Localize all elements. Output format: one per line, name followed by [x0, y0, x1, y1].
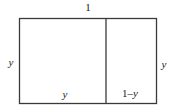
left-height-label: y — [9, 57, 14, 68]
right-height-label: y — [162, 59, 167, 70]
bottom-right-width-label: 1–y — [122, 88, 138, 99]
bottom-left-width-label: y — [63, 89, 68, 100]
top-width-label: 1 — [85, 2, 91, 13]
diagram-canvas — [0, 0, 175, 110]
rectangle-diagram: 1 y y y 1–y — [0, 0, 175, 110]
